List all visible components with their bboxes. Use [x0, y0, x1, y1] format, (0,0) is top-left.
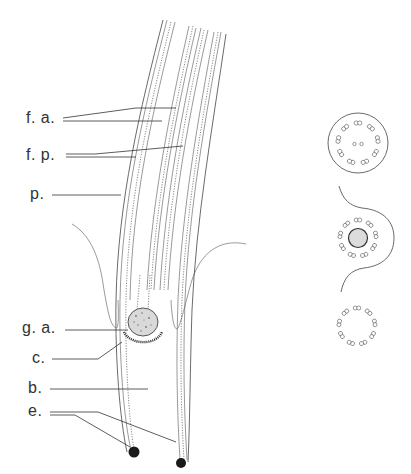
- basal-granule: [124, 275, 162, 342]
- label-fa: f. a.: [26, 110, 55, 126]
- label-fp: f. p.: [26, 147, 55, 163]
- cross-section-middle: [338, 186, 394, 292]
- label-b: b.: [28, 380, 42, 396]
- label-ga: g. a.: [22, 320, 56, 336]
- flagellum-diagram: [0, 0, 411, 474]
- flagellum-bundle: [116, 20, 226, 462]
- label-p: p.: [30, 186, 44, 202]
- cross-section-top: [328, 113, 388, 173]
- cell-invagination: [72, 224, 246, 329]
- end-knobs: [129, 447, 187, 469]
- label-c: c.: [32, 350, 45, 366]
- label-e: e.: [28, 403, 42, 419]
- cross-section-bottom: [337, 306, 378, 346]
